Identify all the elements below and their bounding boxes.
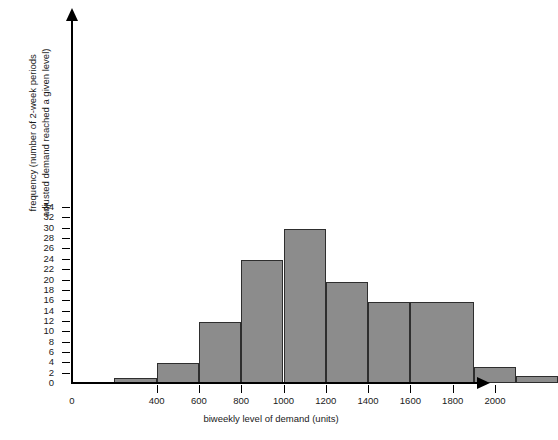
histogram-bar [157, 363, 199, 383]
x-tick-label: 1400 [348, 396, 388, 406]
y-tick-label: 20 [28, 275, 54, 285]
x-tick-label: 800 [221, 396, 261, 406]
y-tick-mark [62, 290, 70, 291]
x-tick-label: 1600 [390, 396, 430, 406]
x-tick-mark [157, 385, 158, 393]
y-tick-label: 22 [28, 264, 54, 274]
y-tick-group: 4 [0, 362, 70, 363]
y-tick-mark [62, 248, 70, 249]
x-tick-label: 1000 [264, 396, 304, 406]
y-tick-mark [62, 259, 70, 260]
y-tick-label: 14 [28, 306, 54, 316]
y-tick-group: 0 [0, 383, 70, 384]
x-tick-mark [368, 385, 369, 393]
y-tick-label: 4 [28, 357, 54, 367]
histogram-bar [368, 302, 410, 383]
y-tick-label: 18 [28, 285, 54, 295]
y-tick-mark [62, 311, 70, 312]
histogram-bar [410, 302, 473, 383]
y-tick-mark [62, 373, 70, 374]
y-axis-line [71, 20, 73, 384]
y-axis-title-line1: frequency (number of 2-week periods [27, 8, 40, 258]
x-tick-mark [453, 385, 454, 393]
x-tick-mark [284, 385, 285, 393]
y-tick-group: 6 [0, 352, 70, 353]
y-tick-mark [62, 269, 70, 270]
y-tick-label: 10 [28, 326, 54, 336]
y-tick-mark [62, 280, 70, 281]
y-tick-mark [62, 362, 70, 363]
y-tick-mark [62, 352, 70, 353]
y-axis-title: frequency (number of 2-week periods adju… [27, 8, 53, 258]
x-tick-label: 600 [179, 396, 219, 406]
x-tick-mark [326, 385, 327, 393]
x-tick-label: 0 [52, 396, 92, 406]
y-tick-group: 14 [0, 311, 70, 312]
x-tick-mark [410, 385, 411, 393]
y-tick-group: 12 [0, 321, 70, 322]
x-axis-title: biweekly level of demand (units) [71, 413, 471, 424]
x-tick-label: 1200 [306, 396, 346, 406]
x-tick-label: 2000 [475, 396, 515, 406]
y-tick-group: 2 [0, 373, 70, 374]
x-tick-mark [199, 385, 200, 393]
x-tick-mark [495, 385, 496, 393]
y-axis-arrow-icon [66, 8, 78, 21]
y-tick-mark [62, 207, 70, 208]
y-tick-label: 12 [28, 316, 54, 326]
y-tick-mark [62, 342, 70, 343]
y-tick-mark [62, 238, 70, 239]
y-tick-label: 2 [28, 368, 54, 378]
x-tick-label: 1800 [433, 396, 473, 406]
y-tick-label: 6 [28, 347, 54, 357]
y-tick-group: 20 [0, 280, 70, 281]
histogram-bar [326, 282, 368, 383]
x-tick-mark [241, 385, 242, 393]
histogram-bar [199, 322, 241, 383]
y-tick-group: 22 [0, 269, 70, 270]
y-tick-group: 8 [0, 342, 70, 343]
y-tick-label: 8 [28, 337, 54, 347]
y-tick-group: 16 [0, 300, 70, 301]
x-tick-label: 400 [137, 396, 177, 406]
y-tick-mark [62, 331, 70, 332]
x-axis-arrow-icon [477, 377, 490, 389]
y-tick-label: 16 [28, 295, 54, 305]
y-tick-mark [62, 321, 70, 322]
histogram-bar [284, 229, 326, 383]
y-tick-mark [62, 228, 70, 229]
y-tick-label: 0 [28, 378, 54, 388]
y-tick-mark [62, 217, 70, 218]
y-tick-group: 18 [0, 290, 70, 291]
histogram-bar [516, 376, 558, 383]
y-axis-title-line2: adjusted demand reached a given level) [40, 8, 53, 258]
y-tick-mark [62, 300, 70, 301]
y-tick-group: 10 [0, 331, 70, 332]
histogram-bar [241, 260, 283, 383]
x-axis-line [71, 382, 480, 384]
y-tick-group: 24 [0, 259, 70, 260]
